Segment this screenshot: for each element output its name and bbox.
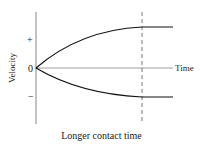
x-axis-label: Time [175, 63, 194, 73]
positive-velocity-curve [36, 27, 173, 68]
y-axis-label: Velocity [7, 53, 17, 83]
negative-velocity-curve [36, 68, 173, 97]
tick-plus: + [27, 34, 33, 45]
tick-zero: 0 [28, 63, 33, 74]
velocity-time-diagram: + 0 − Time Velocity Longer contact time [0, 0, 203, 148]
tick-minus: − [28, 91, 34, 102]
figure-caption: Longer contact time [0, 130, 203, 141]
